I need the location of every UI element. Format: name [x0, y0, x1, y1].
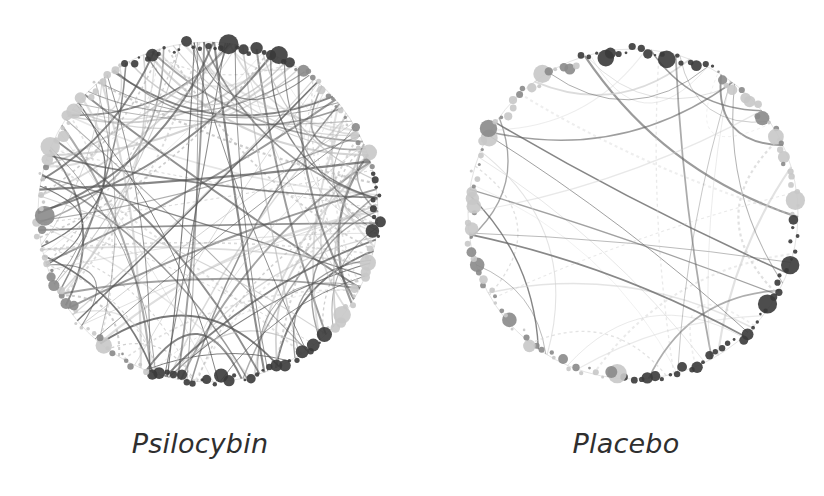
network-node: [39, 207, 44, 212]
network-node: [93, 81, 96, 84]
network-node: [778, 151, 790, 163]
network-node: [472, 184, 476, 188]
network-node: [331, 323, 341, 333]
network-node: [520, 86, 525, 91]
network-node: [350, 284, 359, 293]
network-node: [638, 45, 645, 52]
network-node: [181, 36, 192, 47]
network-node: [489, 288, 494, 293]
network-node: [219, 34, 239, 54]
network-node: [331, 97, 335, 101]
network-node: [255, 372, 259, 376]
network-node: [719, 345, 725, 351]
network-node: [42, 200, 46, 204]
network-node: [781, 256, 799, 274]
network-node: [788, 182, 794, 188]
network-edge: [172, 331, 309, 378]
network-node: [727, 85, 737, 95]
network-node: [189, 380, 195, 386]
network-node: [629, 43, 636, 50]
network-node: [572, 364, 579, 371]
network-node: [703, 61, 709, 67]
network-node: [639, 377, 644, 382]
network-node: [361, 145, 377, 161]
network-node: [184, 379, 190, 385]
network-node: [593, 369, 599, 375]
network-node: [60, 126, 64, 130]
network-node: [579, 371, 583, 375]
network-edge: [738, 138, 779, 294]
network-node: [377, 193, 381, 197]
network-node: [97, 334, 104, 341]
network-node: [494, 301, 498, 305]
network-node: [138, 56, 140, 58]
network-node: [545, 67, 553, 75]
network-node: [788, 173, 794, 179]
network-node: [654, 54, 656, 56]
network-node: [266, 364, 272, 370]
network-node: [109, 350, 115, 356]
network-node: [701, 360, 705, 364]
network-node: [86, 327, 90, 331]
network-node: [500, 116, 504, 120]
network-node: [739, 87, 745, 93]
network-node: [213, 382, 217, 386]
network-node: [80, 326, 84, 330]
network-node: [214, 369, 228, 383]
network-node: [191, 45, 195, 49]
network-node: [79, 107, 83, 111]
placebo-network-diagram: [465, 43, 805, 384]
network-node: [796, 204, 799, 207]
network-node: [306, 69, 311, 74]
network-node: [246, 374, 255, 383]
network-node: [121, 60, 128, 67]
network-node: [767, 121, 771, 125]
network-comparison-figure: [0, 0, 824, 496]
network-node: [48, 280, 59, 291]
network-node: [35, 206, 55, 226]
network-node: [244, 379, 247, 382]
network-node: [779, 140, 784, 145]
network-node: [131, 60, 138, 67]
network-node: [350, 302, 356, 308]
network-node: [127, 363, 133, 369]
network-node: [465, 220, 471, 226]
network-node: [61, 298, 72, 309]
network-node: [42, 254, 48, 260]
network-node: [678, 61, 683, 66]
network-node: [350, 131, 359, 140]
network-node: [605, 48, 616, 59]
network-node: [588, 367, 591, 370]
network-node: [523, 340, 536, 353]
network-node: [367, 245, 374, 252]
network-node: [326, 93, 331, 98]
network-node: [478, 163, 481, 166]
network-node: [789, 215, 799, 225]
network-node: [43, 260, 50, 267]
network-node: [50, 269, 53, 272]
network-node: [124, 358, 129, 363]
network-node: [595, 52, 598, 55]
network-node: [317, 86, 326, 95]
network-node: [467, 187, 478, 198]
network-node: [784, 268, 789, 273]
network-node: [717, 71, 720, 74]
network-node: [285, 57, 295, 67]
network-node: [178, 48, 181, 51]
network-node: [352, 294, 356, 298]
network-node: [41, 177, 46, 182]
network-node: [537, 84, 541, 88]
network-node: [605, 366, 617, 378]
network-node: [669, 373, 673, 377]
network-node: [170, 371, 177, 378]
network-node: [511, 328, 514, 331]
network-node: [143, 369, 149, 375]
network-edge: [470, 189, 777, 294]
network-node: [504, 313, 508, 317]
network-node: [310, 75, 316, 81]
network-node: [465, 241, 471, 247]
network-node: [481, 148, 484, 151]
network-node: [658, 51, 676, 69]
network-edge: [585, 56, 798, 217]
network-node: [754, 101, 762, 109]
